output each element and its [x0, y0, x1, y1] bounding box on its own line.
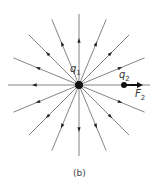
figure-caption: (b)	[73, 168, 86, 178]
field-line	[29, 85, 79, 135]
arrowhead-icon	[94, 123, 97, 128]
charge-q1	[75, 81, 83, 89]
arrowhead-icon	[77, 127, 80, 132]
arrowhead-icon	[117, 100, 122, 103]
field-line	[29, 35, 79, 85]
arrowhead-icon	[32, 83, 37, 86]
arrowhead-icon	[94, 42, 97, 47]
arrowhead-icon	[36, 67, 41, 70]
field-line	[79, 85, 129, 135]
arrowhead-icon	[36, 100, 41, 103]
q1-label: q1	[70, 64, 81, 74]
arrowhead-icon	[61, 123, 64, 128]
q2-label: q2	[119, 70, 130, 80]
arrowhead-icon	[77, 38, 80, 43]
arrowhead-icon	[61, 42, 64, 47]
f2-label: F2	[135, 89, 145, 99]
